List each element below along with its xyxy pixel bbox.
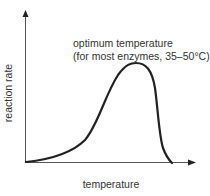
optimum-annotation: optimum temperature (for most enzymes, 3… [73, 37, 210, 63]
enzyme-activity-curve [26, 63, 172, 163]
chart-canvas [0, 0, 210, 196]
y-axis-arrow-icon [23, 10, 29, 17]
annotation-line-2: (for most enzymes, 35–50°C) [73, 50, 210, 63]
y-axis-label: reaction rate [2, 57, 14, 129]
x-axis-arrow-icon [188, 160, 196, 166]
x-axis-label: temperature [0, 178, 210, 190]
annotation-line-1: optimum temperature [73, 37, 210, 50]
